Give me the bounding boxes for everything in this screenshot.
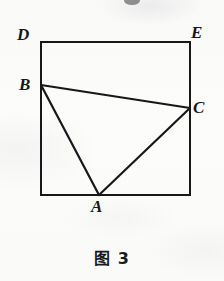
triangle-abc (41, 85, 190, 195)
vertex-label-a: A (91, 198, 102, 215)
figure-caption: 图 3 (0, 245, 224, 269)
vertex-label-e: E (191, 24, 202, 41)
geometry-figure (0, 0, 224, 281)
vertex-label-d: D (17, 26, 29, 43)
outer-rectangle (41, 42, 190, 195)
rectangle-outline (41, 42, 190, 195)
vertex-label-c: C (193, 99, 204, 116)
segment-ba (41, 85, 99, 195)
segment-ac (99, 108, 190, 195)
figure-page: D E B C A 图 3 (0, 0, 224, 281)
segment-bc (41, 85, 190, 108)
vertex-label-b: B (19, 76, 30, 93)
